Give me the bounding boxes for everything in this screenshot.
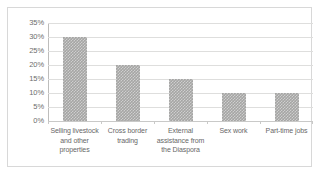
category-tick-mark bbox=[312, 121, 313, 124]
category-tick-mark bbox=[101, 121, 102, 124]
bar[interactable] bbox=[116, 65, 140, 121]
category-label-line: and other bbox=[48, 136, 101, 146]
category-label: Cross bordertrading bbox=[101, 126, 154, 145]
category-label-line: Sex work bbox=[207, 126, 260, 136]
bar-slot bbox=[101, 23, 154, 121]
category-label-line: the Diaspora bbox=[154, 145, 207, 155]
bar[interactable] bbox=[222, 93, 246, 121]
y-axis-tick-label: 25% bbox=[29, 47, 44, 55]
y-axis-tick-label: 20% bbox=[29, 61, 44, 69]
bar-slot bbox=[154, 23, 207, 121]
bar-series bbox=[48, 23, 313, 121]
category-label: Sex work bbox=[207, 126, 260, 136]
bar[interactable] bbox=[169, 79, 193, 121]
category-axis-labels: Selling livestockand otherpropertiesCros… bbox=[48, 126, 313, 166]
category-tick-mark bbox=[48, 121, 49, 124]
category-tick-mark bbox=[207, 121, 208, 124]
category-tick-mark bbox=[260, 121, 261, 124]
plot-area: 0%5%10%15%20%25%30%35% bbox=[48, 23, 313, 121]
category-label: Selling livestockand otherproperties bbox=[48, 126, 101, 155]
category-tick-mark bbox=[154, 121, 155, 124]
category-label-line: Selling livestock bbox=[48, 126, 101, 136]
category-label-line: trading bbox=[101, 136, 154, 146]
bar-slot bbox=[48, 23, 101, 121]
bar[interactable] bbox=[63, 37, 87, 121]
bar[interactable] bbox=[275, 93, 299, 121]
category-label-line: Cross border bbox=[101, 126, 154, 136]
category-label-line: Part-time jobs bbox=[260, 126, 313, 136]
y-axis-tick-label: 35% bbox=[29, 19, 44, 27]
category-label: Externalassistance fromthe Diaspora bbox=[154, 126, 207, 155]
bar-slot bbox=[260, 23, 313, 121]
category-label: Part-time jobs bbox=[260, 126, 313, 136]
category-label-line: assistance from bbox=[154, 136, 207, 146]
category-label-line: properties bbox=[48, 145, 101, 155]
y-axis-tick-label: 0% bbox=[33, 117, 44, 125]
bar-slot bbox=[207, 23, 260, 121]
y-axis-tick-label: 10% bbox=[29, 89, 44, 97]
category-label-line: External bbox=[154, 126, 207, 136]
y-axis-tick-label: 15% bbox=[29, 75, 44, 83]
y-axis-tick-label: 5% bbox=[33, 103, 44, 111]
gridline-0% bbox=[48, 121, 313, 122]
chart-figure: 0%5%10%15%20%25%30%35% Selling livestock… bbox=[7, 7, 312, 167]
y-axis-tick-label: 30% bbox=[29, 33, 44, 41]
